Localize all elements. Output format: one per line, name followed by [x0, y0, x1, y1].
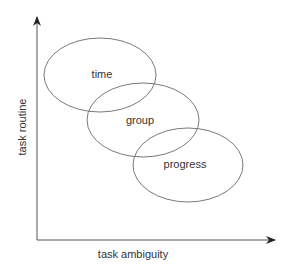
y-axis-label: task routine — [16, 99, 28, 156]
x-axis-label: task ambiguity — [98, 248, 169, 260]
label-progress: progress — [164, 158, 207, 170]
label-group: group — [126, 114, 154, 126]
diagram-canvas: time group progress task ambiguity task … — [0, 0, 297, 268]
label-time: time — [92, 68, 113, 80]
